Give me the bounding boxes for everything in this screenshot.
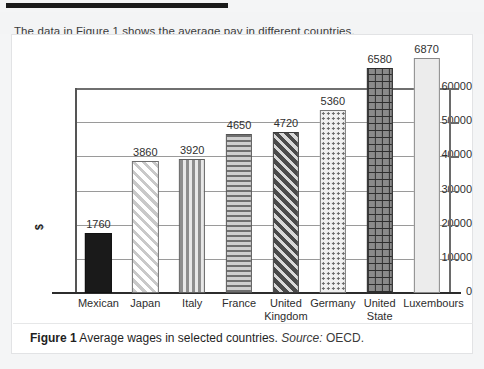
- bar[interactable]: [226, 134, 252, 293]
- bar-slot: 3920: [169, 88, 216, 293]
- figure-panel: $ 0100002000030000400005000060000 176038…: [11, 34, 473, 354]
- caption-figure-label: Figure 1: [30, 331, 77, 345]
- bar-slot: 4650: [216, 88, 263, 293]
- bar-slot: 4720: [263, 88, 310, 293]
- caption-source-label: Source:: [281, 331, 322, 345]
- bars-group: 17603860392046504720536065806870: [75, 88, 450, 293]
- x-axis-label: Germany: [309, 297, 356, 310]
- figure-caption: Figure 1 Average wages in selected count…: [30, 331, 364, 345]
- right-axis-tick: [450, 225, 459, 227]
- bar-chart: $ 0100002000030000400005000060000 176038…: [12, 35, 472, 321]
- right-axis-tick: [450, 191, 459, 193]
- bar-value-label: 5360: [321, 95, 345, 107]
- bar[interactable]: [179, 159, 205, 293]
- right-axis-tick: [450, 122, 459, 124]
- x-axis-label: Japan: [122, 297, 169, 310]
- x-axis-label: Italy: [169, 297, 216, 310]
- bar-slot: 5360: [309, 88, 356, 293]
- top-rule-divider: [6, 3, 228, 8]
- bar[interactable]: [132, 161, 158, 293]
- caption-source-value: OECD.: [326, 331, 364, 345]
- intro-band: The data in Figure 1 shows the average p…: [0, 12, 484, 34]
- caption-title: Average wages in selected countries.: [79, 331, 278, 345]
- bar[interactable]: [320, 110, 346, 293]
- bar-value-label: 1760: [86, 218, 110, 230]
- bar-value-label: 6870: [414, 43, 438, 55]
- x-axis-label: France: [216, 297, 263, 310]
- bar-slot: 1760: [75, 88, 122, 293]
- caption-divider: [13, 323, 473, 324]
- right-axis-tick: [450, 259, 459, 261]
- bar-slot: 3860: [122, 88, 169, 293]
- bar-value-label: 6580: [367, 53, 391, 65]
- bar-slot: 6870: [403, 88, 450, 293]
- textbook-page: The data in Figure 1 shows the average p…: [0, 0, 484, 369]
- bar[interactable]: [273, 132, 299, 293]
- bar[interactable]: [85, 233, 111, 293]
- bar[interactable]: [413, 58, 439, 293]
- bar-value-label: 3920: [180, 144, 204, 156]
- right-axis-tick: [450, 156, 459, 158]
- bar[interactable]: [367, 68, 393, 293]
- y-axis-title: $: [33, 224, 45, 230]
- x-axis-label: Mexican: [75, 297, 122, 310]
- bar-value-label: 4650: [227, 119, 251, 131]
- x-axis-label: United State: [356, 297, 403, 323]
- bar-slot: 6580: [356, 88, 403, 293]
- bar-value-label: 3860: [133, 146, 157, 158]
- bar-value-label: 4720: [274, 117, 298, 129]
- x-axis-label: United Kingdom: [263, 297, 310, 323]
- x-axis-label: Luxembours: [403, 297, 450, 310]
- right-axis-tick: [450, 88, 459, 90]
